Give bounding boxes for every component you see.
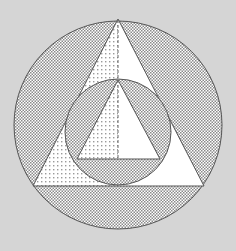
geometric-diagram [0,0,236,251]
